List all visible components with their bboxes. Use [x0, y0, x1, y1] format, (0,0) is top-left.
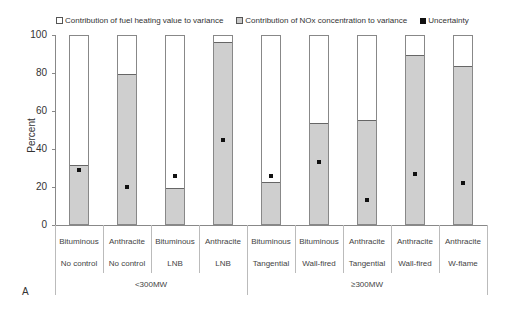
group-label: <300MW: [55, 280, 247, 289]
stacked-bar: [453, 35, 473, 225]
category-fuel-label: Bituminous: [247, 237, 295, 246]
y-tick-mark: [52, 35, 56, 36]
bar-segment-nox: [310, 123, 328, 224]
category-fuel-label: Anthracite: [103, 237, 151, 246]
category-divider: [391, 225, 392, 273]
stacked-bar: [261, 35, 281, 225]
uncertainty-marker: [413, 172, 417, 176]
category-fuel-label: Bituminous: [295, 237, 343, 246]
category-divider: [343, 225, 344, 273]
y-axis-label: Percent: [26, 118, 37, 152]
category-burner-label: Wall-fired: [295, 259, 343, 268]
category-divider: [103, 225, 104, 273]
uncertainty-marker: [221, 138, 225, 142]
stacked-bar: [309, 35, 329, 225]
x-axis: [55, 225, 487, 226]
stacked-bar: [405, 35, 425, 225]
uncertainty-marker: [365, 198, 369, 202]
category-divider: [439, 225, 440, 273]
bar-segment-nox: [70, 165, 88, 224]
category-burner-label: No control: [55, 259, 103, 268]
bar-segment-nox: [454, 66, 472, 224]
uncertainty-marker: [77, 168, 81, 172]
stacked-bar: [117, 35, 137, 225]
y-tick-label: 80: [23, 67, 47, 78]
stacked-bar: [69, 35, 89, 225]
y-tick-mark: [52, 111, 56, 112]
bar-segment-nox: [214, 42, 232, 224]
y-tick-label: 0: [23, 219, 47, 230]
stacked-bar: [357, 35, 377, 225]
bar-segment-nox: [118, 74, 136, 224]
bar-segment-nox: [166, 188, 184, 224]
uncertainty-marker: [125, 185, 129, 189]
category-burner-label: LNB: [151, 259, 199, 268]
category-fuel-label: Bituminous: [55, 237, 103, 246]
category-divider: [295, 225, 296, 273]
category-fuel-label: Anthracite: [391, 237, 439, 246]
y-tick-mark: [52, 187, 56, 188]
category-burner-label: Tangential: [247, 259, 295, 268]
bar-segment-nox: [358, 120, 376, 225]
stacked-bar: [213, 35, 233, 225]
y-tick-label: 60: [23, 105, 47, 116]
category-divider: [199, 225, 200, 273]
category-divider: [487, 225, 488, 295]
category-fuel-label: Anthracite: [439, 237, 487, 246]
category-burner-label: W-flame: [439, 259, 487, 268]
uncertainty-marker: [269, 174, 273, 178]
category-divider: [151, 225, 152, 273]
y-tick-mark: [52, 73, 56, 74]
group-label: ≥300MW: [247, 280, 487, 289]
y-axis: [55, 35, 56, 225]
uncertainty-marker: [173, 174, 177, 178]
uncertainty-marker: [461, 181, 465, 185]
category-burner-label: Tangential: [343, 259, 391, 268]
y-tick-label: 20: [23, 181, 47, 192]
category-fuel-label: Bituminous: [151, 237, 199, 246]
category-burner-label: No control: [103, 259, 151, 268]
bar-segment-nox: [406, 55, 424, 224]
category-fuel-label: Anthracite: [199, 237, 247, 246]
y-tick-mark: [52, 149, 56, 150]
stacked-bar: [165, 35, 185, 225]
category-burner-label: LNB: [199, 259, 247, 268]
category-fuel-label: Anthracite: [343, 237, 391, 246]
panel-label: A: [22, 286, 29, 297]
category-burner-label: Wall-fired: [391, 259, 439, 268]
uncertainty-marker: [317, 160, 321, 164]
stacked-bar-chart: 020406080100PercentBituminousNo controlA…: [0, 0, 505, 309]
bar-segment-nox: [262, 182, 280, 224]
y-tick-label: 100: [23, 29, 47, 40]
